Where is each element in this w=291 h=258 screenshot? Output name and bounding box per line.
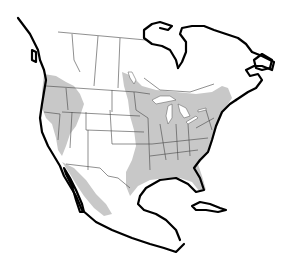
north-america-range-map — [0, 0, 291, 258]
coastline-vancouver-island — [32, 50, 36, 62]
coastline-cuba — [192, 202, 226, 212]
